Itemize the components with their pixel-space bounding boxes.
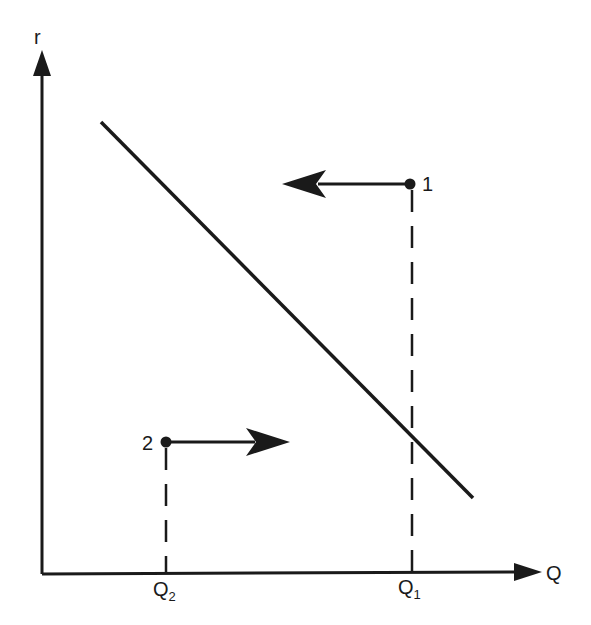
- point-2: [161, 428, 291, 574]
- x-tick-q1: Q1: [398, 576, 421, 602]
- y-axis: [33, 50, 51, 574]
- point-1-label: 1: [422, 173, 433, 195]
- x-axis: [42, 563, 542, 581]
- x-axis-label: Q: [546, 562, 562, 584]
- x-tick-q2: Q2: [153, 578, 176, 604]
- y-axis-label: r: [34, 26, 41, 48]
- point-2-label: 2: [142, 432, 153, 454]
- diagram-canvas: r Q 1 2 Q2 Q1: [0, 0, 591, 625]
- x-axis-arrow-icon: [514, 563, 542, 581]
- y-axis-arrow-icon: [33, 50, 51, 76]
